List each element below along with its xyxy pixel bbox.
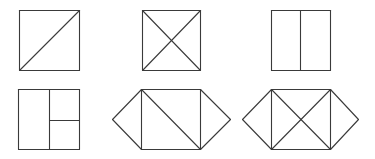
figure-square-split-three bbox=[19, 90, 80, 150]
line-segment bbox=[243, 120, 272, 150]
figures-canvas bbox=[0, 0, 375, 159]
line-segment bbox=[20, 11, 80, 71]
line-segment bbox=[142, 90, 201, 150]
figure-square-vertical-split bbox=[272, 11, 331, 71]
line-segment bbox=[113, 120, 142, 150]
line-segment bbox=[113, 90, 142, 120]
line-segment bbox=[201, 90, 231, 120]
line-segment bbox=[331, 90, 359, 120]
figure-hexagon-two-diagonals bbox=[243, 90, 359, 150]
figure-square-two-diagonals bbox=[143, 11, 201, 71]
figure-hexagon-one-diagonal bbox=[113, 90, 231, 150]
line-segment bbox=[243, 90, 272, 120]
line-segment bbox=[331, 120, 359, 150]
figure-square-one-diagonal bbox=[20, 11, 80, 71]
line-segment bbox=[201, 120, 231, 150]
